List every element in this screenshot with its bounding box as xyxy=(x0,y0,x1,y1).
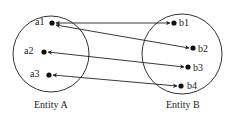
arrow-a2-b3 xyxy=(48,52,184,67)
dot-b3 xyxy=(185,64,190,69)
dot-b1 xyxy=(171,20,176,25)
label-b2: b2 xyxy=(198,44,208,54)
label-b3: b3 xyxy=(193,63,203,73)
dot-a2 xyxy=(41,49,46,54)
label-b4: b4 xyxy=(187,81,197,91)
label-a3: a3 xyxy=(30,69,39,79)
entity-b-title: Entity B xyxy=(166,100,200,110)
label-b1: b1 xyxy=(179,18,189,28)
dot-b2 xyxy=(190,45,195,50)
arrow-a3-b4 xyxy=(53,75,177,86)
entity-a-title: Entity A xyxy=(34,100,68,110)
relation-arrows xyxy=(48,23,189,86)
dot-b4 xyxy=(178,83,183,88)
label-a1: a1 xyxy=(35,17,44,27)
arrow-a1-b2 xyxy=(56,25,189,48)
element-dots xyxy=(41,20,195,88)
dot-a3 xyxy=(46,72,51,77)
label-a2: a2 xyxy=(24,46,33,56)
dot-a1 xyxy=(49,20,54,25)
